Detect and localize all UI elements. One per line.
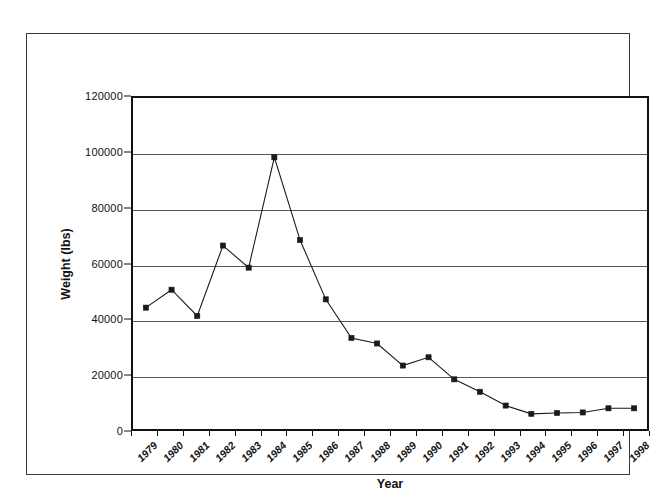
- data-point-marker: [554, 410, 559, 415]
- x-axis-tick-mark: [649, 431, 650, 436]
- x-axis-tick-label-text: 1989: [393, 439, 418, 464]
- figure-frame: Weight (lbs) 020000400006000080000100000…: [26, 33, 630, 475]
- data-point-marker: [246, 265, 251, 270]
- data-point-marker: [220, 243, 225, 248]
- x-axis-title: Year: [131, 477, 649, 491]
- x-axis-tick-label-text: 1982: [212, 439, 237, 464]
- x-axis-tick-label-text: 1992: [471, 439, 496, 464]
- data-point-marker: [477, 389, 482, 394]
- data-point-marker: [632, 406, 637, 411]
- x-axis-tick-mark: [157, 431, 158, 436]
- y-axis-tick-marks: [27, 96, 131, 431]
- data-point-marker: [169, 287, 174, 292]
- x-axis-tick-mark: [468, 431, 469, 436]
- x-axis-tick-mark: [390, 431, 391, 436]
- x-axis-tick-mark: [183, 431, 184, 436]
- x-axis-tick-mark: [416, 431, 417, 436]
- x-axis-tick-label-text: 1985: [290, 439, 315, 464]
- x-axis-tick-mark: [312, 431, 313, 436]
- data-point-marker: [195, 313, 200, 318]
- x-axis-tick-mark: [235, 431, 236, 436]
- data-point-marker: [349, 335, 354, 340]
- x-axis-tick-label-text: 1984: [264, 439, 289, 464]
- x-axis-tick-label-text: 1996: [575, 439, 600, 464]
- data-point-marker: [503, 403, 508, 408]
- x-axis-tick-label-text: 1997: [601, 439, 626, 464]
- data-point-marker: [375, 341, 380, 346]
- x-axis-tick-mark: [131, 431, 132, 436]
- data-point-marker: [400, 363, 405, 368]
- x-axis-tick-label-text: 1987: [342, 439, 367, 464]
- data-point-marker: [143, 305, 148, 310]
- data-point-marker: [297, 237, 302, 242]
- x-axis-tick-label-text: 1995: [549, 439, 574, 464]
- data-point-marker: [452, 377, 457, 382]
- x-axis-tick-label-text: 1979: [134, 439, 159, 464]
- x-axis-tick-mark: [442, 431, 443, 436]
- x-axis-tick-mark: [597, 431, 598, 436]
- y-axis-tick-mark: [124, 319, 131, 320]
- x-axis-tick-label-text: 1980: [160, 439, 185, 464]
- x-axis-tick-label-text: 1990: [419, 439, 444, 464]
- data-point-marker: [580, 410, 585, 415]
- y-axis-tick-mark: [124, 375, 131, 376]
- x-axis-tick-label-text: 1988: [368, 439, 393, 464]
- y-axis-tick-mark: [124, 431, 131, 432]
- y-axis-tick-mark: [124, 151, 131, 152]
- data-point-marker: [272, 155, 277, 160]
- plot-area: [131, 96, 649, 431]
- data-point-marker: [323, 297, 328, 302]
- y-axis-tick-mark: [124, 207, 131, 208]
- x-axis-tick-label-text: 1983: [238, 439, 263, 464]
- data-point-marker: [529, 411, 534, 416]
- x-axis-tick-label-text: 1998: [627, 439, 652, 464]
- series-plot: [133, 98, 647, 429]
- x-axis-tick-mark: [261, 431, 262, 436]
- x-axis-tick-label-text: 1991: [445, 439, 470, 464]
- data-point-marker: [426, 355, 431, 360]
- y-axis-tick-mark: [124, 263, 131, 264]
- x-axis-tick-mark: [286, 431, 287, 436]
- x-axis-tick-mark: [545, 431, 546, 436]
- x-axis-tick-mark: [494, 431, 495, 436]
- x-axis-tick-label-text: 1981: [186, 439, 211, 464]
- x-axis-tick-mark: [623, 431, 624, 436]
- y-axis-tick-mark: [124, 96, 131, 97]
- x-axis-tick-mark: [364, 431, 365, 436]
- x-axis-tick-label-text: 1993: [497, 439, 522, 464]
- x-axis-tick-mark: [209, 431, 210, 436]
- x-axis-tick-mark: [338, 431, 339, 436]
- x-axis-tick-label-text: 1994: [523, 439, 548, 464]
- x-axis-tick-mark: [520, 431, 521, 436]
- series-line: [146, 157, 634, 414]
- x-axis-tick-label-text: 1986: [316, 439, 341, 464]
- data-point-marker: [606, 406, 611, 411]
- x-axis-tick-mark: [571, 431, 572, 436]
